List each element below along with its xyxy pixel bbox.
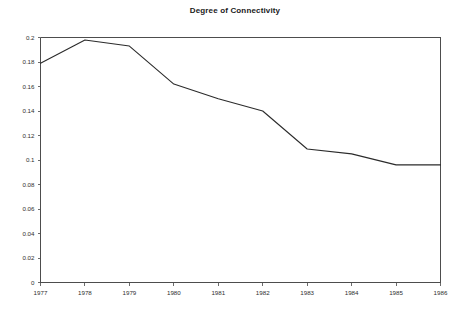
x-axis-tick-label: 1985 (389, 289, 403, 296)
y-axis-tick-label: 0.2 (26, 34, 35, 41)
y-axis-tick-label: 0.16 (22, 83, 35, 90)
y-axis-tick-label: 0.04 (22, 230, 35, 237)
x-axis-tick-label: 1980 (167, 289, 181, 296)
x-axis-tick-label: 1981 (211, 289, 225, 296)
y-axis-tick-label: 0.08 (22, 181, 35, 188)
x-axis-tick-label: 1986 (434, 289, 448, 296)
chart-container: Degree of Connectivity 00.020.040.060.08… (0, 0, 470, 313)
x-axis-tick-label: 1979 (123, 289, 137, 296)
x-axis-tick-label: 1978 (78, 289, 92, 296)
line-chart-plot: 00.020.040.060.080.10.120.140.160.180.2 … (0, 0, 470, 313)
x-axis-tick-label: 1982 (256, 289, 270, 296)
plot-axis-frame (41, 38, 441, 283)
data-series-line (41, 40, 441, 165)
y-axis-tick-label: 0 (31, 279, 35, 286)
x-axis-tick-label: 1977 (34, 289, 48, 296)
y-axis-tick-label: 0.14 (22, 107, 35, 114)
x-axis-labels: 1977197819791980198119821983198419851986 (34, 289, 448, 296)
y-axis-tick-label: 0.02 (22, 254, 35, 261)
y-axis-tick-label: 0.06 (22, 205, 35, 212)
y-axis-tick-label: 0.18 (22, 58, 35, 65)
x-axis-tick-label: 1984 (345, 289, 359, 296)
y-axis-tick-label: 0.1 (26, 156, 35, 163)
y-axis-labels: 00.020.040.060.080.10.120.140.160.180.2 (22, 34, 35, 286)
y-axis-tick-label: 0.12 (22, 132, 35, 139)
x-axis-tick-label: 1983 (300, 289, 314, 296)
